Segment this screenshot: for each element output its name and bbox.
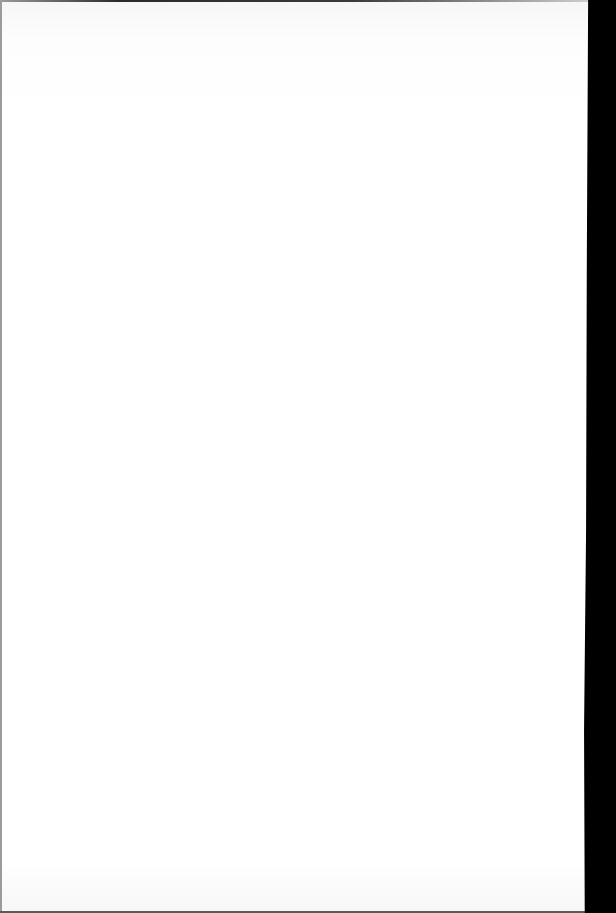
page-left-edge [0,0,2,913]
page-top-edge [0,0,590,2]
blank-page [0,0,616,913]
scanned-document [0,0,616,913]
